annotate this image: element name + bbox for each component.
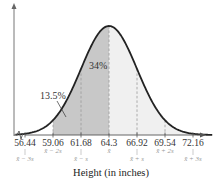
annotation-13-5-percent: 13.5% xyxy=(40,90,66,101)
x-tick-label: 72.16 xyxy=(182,138,204,148)
x-tick-label: 56.44 xyxy=(14,138,36,148)
x-tick-symbol-label: x̄ − s xyxy=(73,155,88,163)
x-ticks: 56.44x̄ − 3s59.06x̄ − 2s61.68x̄ − s64.3x… xyxy=(14,133,204,164)
annotation-34-percent: 34% xyxy=(89,60,107,71)
normal-distribution-chart: 56.44x̄ − 3s59.06x̄ − 2s61.68x̄ − s64.3x… xyxy=(0,0,223,191)
shaded-region-1 xyxy=(81,26,109,135)
x-axis-arrow-icon xyxy=(200,133,206,138)
x-tick-label: 66.92 xyxy=(126,138,148,148)
shaded-regions xyxy=(53,26,193,135)
x-tick-symbol-label: x̄ + 2s xyxy=(155,147,174,155)
y-axis-arrow-icon xyxy=(12,3,17,9)
x-tick-symbol-label: x̄ + 3s xyxy=(183,155,202,163)
x-tick-symbol-label: x̄ − 2s xyxy=(43,147,62,155)
shaded-region-2 xyxy=(109,26,193,135)
x-tick-symbol-label: x̄ + s xyxy=(129,155,144,163)
x-axis-label: Height (in inches) xyxy=(73,167,149,179)
x-tick-symbol-label: x̄ xyxy=(106,147,111,155)
x-tick-symbol-label: x̄ − 3s xyxy=(15,155,34,163)
x-tick-label: 61.68 xyxy=(70,138,92,148)
